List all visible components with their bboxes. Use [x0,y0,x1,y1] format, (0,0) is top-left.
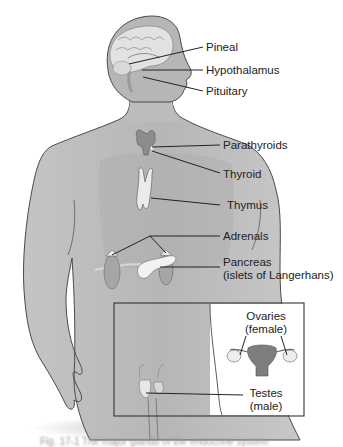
label-pancreas-title: Pancreas [223,256,334,269]
label-thyroid: Thyroid [223,168,261,181]
label-thymus: Thymus [227,199,268,212]
label-testes: Testes (male) [238,387,294,413]
label-ovaries: Ovaries (female) [236,310,296,336]
label-pancreas-subtitle: (islets of Langerhans) [223,269,334,282]
cerebellum [113,61,131,75]
left-kidney [104,255,120,289]
left-ovary [227,350,241,362]
label-pineal: Pineal [206,41,238,54]
label-ovaries-title: Ovaries [236,310,296,323]
label-testes-title: Testes [238,387,294,400]
figure-caption: Fig. 17-1 The major glands of the endocr… [40,436,268,447]
label-adrenals: Adrenals [223,230,268,243]
label-pituitary: Pituitary [206,85,248,98]
label-hypothalamus: Hypothalamus [206,64,280,77]
label-testes-subtitle: (male) [238,400,294,413]
label-ovaries-subtitle: (female) [236,323,296,336]
label-parathyroids: Parathyroids [223,139,288,152]
right-ovary [283,350,297,362]
label-pancreas: Pancreas (islets of Langerhans) [223,256,334,282]
